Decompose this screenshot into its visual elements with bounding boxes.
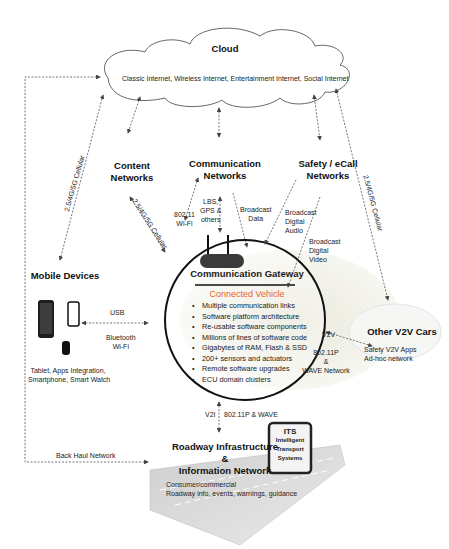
safety-ecall-networks-label: Safety / eCall Networks [296,158,360,182]
cloud-title: Cloud [195,43,255,55]
feature-item: ECU domain clusters [202,375,307,386]
roadway-caption: Consumer/commercial Roadway info, events… [166,480,297,498]
cloud-shape [104,28,349,107]
gateway-subtitle: Connected Vehicle [187,289,307,299]
lbs-gps-label: LBS, GPS & others [200,197,221,224]
cloud-subtitle: Classic Internet, Wireless Internet, Ent… [122,74,348,83]
broadcast-video-label: Broadcast Digital Video [309,237,341,264]
smartphone-icon [68,302,79,326]
feature-item: Millions of lines of software code [202,333,307,344]
feature-item: Multiple communication links [202,301,307,312]
communication-networks-label: Communication Networks [185,158,265,182]
feature-item: Gigabytes of RAM, Flash & SSD [202,343,307,354]
v2i-label: V2I [205,410,216,419]
broadcast-data-label: Broadcast Data [240,205,272,223]
tablet-icon [38,300,54,338]
mobile-devices-caption: Tablet, Apps Integration, Smartphone, Sm… [28,366,108,384]
wifi-label: 802.11 Wi-Fi [174,210,195,228]
back-haul-network-label: Back Haul Network [56,451,116,460]
mobile-devices-label: Mobile Devices [30,270,100,282]
v2v-network-label: 802.11P & WAVE Network [296,348,356,375]
usb-label: USB [110,308,124,317]
its-label: ITS Intelligent Transport Systems [270,427,310,463]
broadcast-audio-label: Broadcast Digital Audio [285,208,317,235]
feature-item: Software platform architecture [202,312,307,323]
content-networks-label: Content Networks [92,160,172,184]
other-v2v-caption: Safety V2V Apps Ad-hoc network [364,345,417,363]
feature-item: Remote software upgrades [202,364,307,375]
v2v-label: V2V [322,330,335,339]
feature-item: Re-usable software components [202,322,307,333]
gateway-feature-list: Multiple communication links Software pl… [190,301,307,385]
v2i-network-label: 802.11P & WAVE [224,410,278,419]
roadway-infrastructure-label: Roadway Infrastructure & Information Net… [170,441,280,477]
other-v2v-cars-label: Other V2V Cars [362,326,442,338]
gateway-title: Communication Gateway [187,268,307,279]
smartwatch-icon [62,341,70,355]
bluetooth-wifi-label: Bluetooth Wi-Fi [106,333,136,351]
feature-item: 200+ sensors and actuators [202,354,307,365]
